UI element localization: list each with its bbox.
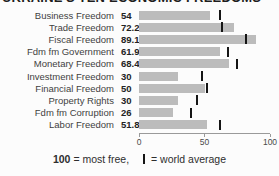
chart-row: Property Rights30 xyxy=(0,94,279,106)
chart-row: Investment Freedom30 xyxy=(0,70,279,82)
row-label: Fdm fm Corruption xyxy=(0,107,114,118)
bar xyxy=(139,35,256,44)
row-value: 68.4 xyxy=(114,58,139,69)
bar-track xyxy=(139,35,270,44)
row-label: Investment Freedom xyxy=(0,71,114,82)
chart-row: Labor Freedom51.8 xyxy=(0,119,279,131)
legend-100: 100 xyxy=(53,153,71,165)
world-average-marker xyxy=(190,108,192,118)
row-value: 50 xyxy=(114,83,139,94)
bar xyxy=(139,84,205,93)
chart-row: Fiscal Freedom89.1 xyxy=(0,33,279,45)
bar xyxy=(139,120,207,129)
bar-track xyxy=(139,72,270,81)
world-average-marker xyxy=(196,95,198,105)
bar-track xyxy=(139,47,270,56)
row-value: 30 xyxy=(114,95,139,106)
bar xyxy=(139,72,178,81)
row-value: 30 xyxy=(114,71,139,82)
row-label: Business Freedom xyxy=(0,10,114,21)
bar xyxy=(139,11,210,20)
bar xyxy=(139,23,234,32)
legend-most-free: = most free, xyxy=(70,153,129,165)
world-average-marker xyxy=(201,71,203,81)
row-label: Labor Freedom xyxy=(0,119,114,130)
row-label: Fdm fm Government xyxy=(0,46,114,57)
world-average-marker xyxy=(219,120,221,130)
world-average-marker-icon xyxy=(143,154,145,164)
chart-row: Trade Freedom72.2 xyxy=(0,21,279,33)
bar-track xyxy=(139,23,270,32)
world-average-marker xyxy=(221,22,223,32)
legend-note: 100 = most free, = world average xyxy=(0,153,279,165)
bar-track xyxy=(139,120,270,129)
world-average-marker xyxy=(245,34,247,44)
bar-chart: Business Freedom54Trade Freedom72.2Fisca… xyxy=(0,9,279,147)
bar xyxy=(139,59,229,68)
row-value: 54 xyxy=(114,10,139,21)
row-label: Monetary Freedom xyxy=(0,58,114,69)
bar xyxy=(139,108,173,117)
row-value: 51.8 xyxy=(114,119,139,130)
axis-tick-label: 100 xyxy=(263,137,277,147)
legend-world-average: = world average xyxy=(151,153,226,165)
bar-track xyxy=(139,84,270,93)
chart-row: Fdm fm Government61.9 xyxy=(0,46,279,58)
chart-title-text: UKRAINE'S TEN ECONOMIC FREEDOMS xyxy=(2,0,261,5)
bar xyxy=(139,47,220,56)
row-value: 72.2 xyxy=(114,22,139,33)
bar xyxy=(139,96,178,105)
chart-rows: Business Freedom54Trade Freedom72.2Fisca… xyxy=(0,9,279,131)
bar-track xyxy=(139,108,270,117)
row-label: Property Rights xyxy=(0,95,114,106)
row-label: Financial Freedom xyxy=(0,83,114,94)
row-value: 26 xyxy=(114,107,139,118)
chart-row: Monetary Freedom68.4 xyxy=(0,58,279,70)
row-value: 89.1 xyxy=(114,34,139,45)
chart-row: Business Freedom54 xyxy=(0,9,279,21)
world-average-marker xyxy=(206,83,208,93)
bar-track xyxy=(139,11,270,20)
chart-title-cropped: UKRAINE'S TEN ECONOMIC FREEDOMS xyxy=(0,0,279,5)
world-average-marker xyxy=(236,59,238,69)
row-value: 61.9 xyxy=(114,46,139,57)
chart-row: Financial Freedom50 xyxy=(0,82,279,94)
row-label: Fiscal Freedom xyxy=(0,34,114,45)
chart-row: Fdm fm Corruption26 xyxy=(0,107,279,119)
world-average-marker xyxy=(227,47,229,57)
axis-tick-label: 0 xyxy=(137,137,142,147)
bar-track xyxy=(139,96,270,105)
bar-track xyxy=(139,59,270,68)
axis-tick-label: 50 xyxy=(200,137,209,147)
world-average-marker xyxy=(219,10,221,20)
x-axis: 050100 xyxy=(139,133,270,147)
row-label: Trade Freedom xyxy=(0,22,114,33)
